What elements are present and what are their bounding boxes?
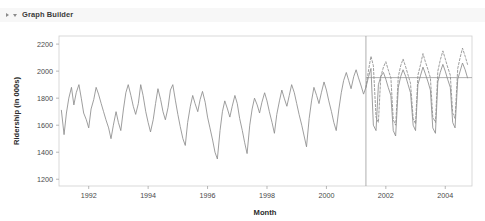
triangle-right-icon[interactable] bbox=[6, 13, 9, 17]
y-axis-tick-label: 1600 bbox=[37, 121, 53, 130]
y-axis-tick-label: 2200 bbox=[37, 40, 53, 49]
y-axis-tick-label: 1200 bbox=[37, 175, 53, 184]
plot-frame bbox=[59, 36, 472, 186]
x-axis-tick-label: 2004 bbox=[437, 191, 453, 200]
x-axis-tick-label: 1996 bbox=[200, 191, 216, 200]
triangle-down-icon[interactable] bbox=[13, 14, 17, 17]
x-axis-tick-label: 2002 bbox=[378, 191, 394, 200]
x-axis-tick-label: 1994 bbox=[140, 191, 156, 200]
x-axis-tick-label: 1992 bbox=[81, 191, 97, 200]
y-axis-tick-label: 1400 bbox=[37, 148, 53, 157]
x-axis-title: Month bbox=[254, 208, 277, 217]
x-axis-tick-label: 1998 bbox=[259, 191, 275, 200]
x-axis-tick-label: 2000 bbox=[318, 191, 334, 200]
outline-title-bar[interactable]: Graph Builder bbox=[0, 8, 485, 22]
ridership-line-chart[interactable]: 120014001600180020002200 199219941996199… bbox=[0, 24, 485, 221]
x-axis-ticks: 1992199419961998200020022004 bbox=[81, 186, 454, 200]
y-axis-title: Ridership (in 000s) bbox=[12, 77, 21, 145]
outline-title-label: Graph Builder bbox=[22, 11, 73, 19]
chart-panel: 120014001600180020002200 199219941996199… bbox=[0, 24, 485, 221]
y-axis-tick-label: 2000 bbox=[37, 67, 53, 76]
y-axis-ticks: 120014001600180020002200 bbox=[37, 40, 59, 184]
y-axis-tick-label: 1800 bbox=[37, 94, 53, 103]
graph-builder-window: Graph Builder 120014001600180020002200 1… bbox=[0, 0, 485, 221]
